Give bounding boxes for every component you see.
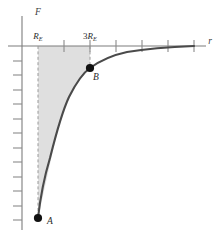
- point-a-label: A: [46, 216, 53, 226]
- y-axis-ticks: [13, 61, 22, 220]
- x-axis-label: r: [208, 36, 212, 46]
- tick-label-3re: 3RE: [83, 31, 97, 42]
- y-axis-label: F: [34, 7, 41, 17]
- tick-label-re: RE: [32, 31, 43, 42]
- point-a-marker: [34, 214, 42, 222]
- force-vs-distance-figure: F r RE 3RE A B: [0, 0, 219, 233]
- point-b-label: B: [93, 72, 99, 82]
- tick-label-3re-sub: E: [92, 35, 97, 42]
- figure-canvas: F r RE 3RE A B: [0, 0, 219, 233]
- point-b-marker: [86, 64, 94, 72]
- shaded-work-area: [38, 46, 90, 218]
- tick-label-re-sub: E: [38, 35, 43, 42]
